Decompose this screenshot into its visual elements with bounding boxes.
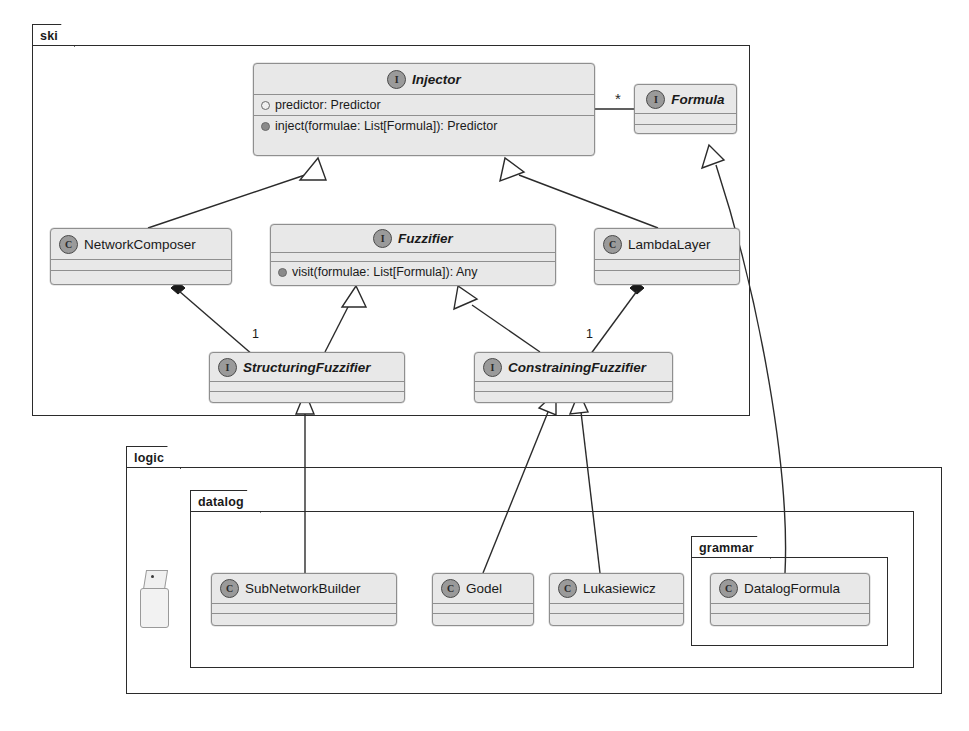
class-box-godel[interactable]: C Godel	[432, 573, 534, 626]
class-box-fuzzifier[interactable]: I Fuzzifier visit(formulae: List[Formula…	[270, 224, 556, 286]
attributes-compartment	[271, 252, 555, 261]
edge-lambdalayer-injector	[500, 158, 658, 228]
class-box-networkcomposer[interactable]: C NetworkComposer	[50, 228, 232, 285]
note-body	[140, 588, 169, 628]
operations-compartment	[210, 391, 404, 401]
class-title-datalogformula: C DatalogFormula	[711, 574, 869, 603]
attributes-compartment	[433, 603, 533, 613]
class-box-injector[interactable]: I Injector predictor: Predictor inject(f…	[253, 63, 595, 156]
visibility-hollow-icon	[261, 101, 270, 110]
class-title-lambdalayer: C LambdaLayer	[595, 229, 739, 259]
edge-subnetworkbuilder-structuringfuzzifier	[296, 392, 314, 573]
class-title-subnetworkbuilder: C SubNetworkBuilder	[212, 574, 396, 603]
edge-lambdalayer-constrainingfuzzifier	[590, 282, 644, 355]
class-title-lukasiewicz: C Lukasiewicz	[550, 574, 683, 603]
edge-constrainingfuzzifier-fuzzifier	[454, 286, 540, 352]
class-box-datalogformula[interactable]: C DatalogFormula	[710, 573, 870, 626]
class-box-lambdalayer[interactable]: C LambdaLayer	[594, 228, 740, 285]
note-scrap	[140, 570, 170, 628]
operations-compartment	[212, 613, 396, 623]
multiplicity-lambdalayer-constrainingfuzzifier: 1	[586, 327, 593, 341]
operations-compartment	[51, 270, 231, 281]
operations-compartment	[433, 613, 533, 623]
class-title-godel: C Godel	[433, 574, 533, 603]
operation-text: visit(formulae: List[Formula]): Any	[292, 265, 477, 279]
class-name-subnetworkbuilder: SubNetworkBuilder	[245, 581, 361, 596]
edge-structuringfuzzifier-fuzzifier	[325, 286, 366, 352]
class-box-subnetworkbuilder[interactable]: C SubNetworkBuilder	[211, 573, 397, 626]
operations-compartment	[711, 613, 869, 623]
note-asterisk-marker	[151, 575, 154, 578]
multiplicity-networkcomposer-structuringfuzzifier: 1	[252, 327, 259, 341]
uml-class-diagram: ski logic datalog grammar	[0, 0, 969, 731]
class-box-lukasiewicz[interactable]: C Lukasiewicz	[549, 573, 684, 626]
class-title-networkcomposer: C NetworkComposer	[51, 229, 231, 259]
attributes-compartment	[550, 603, 683, 613]
interface-stereotype-icon: I	[483, 358, 502, 377]
class-stereotype-icon: C	[441, 579, 460, 598]
interface-stereotype-icon: I	[373, 229, 392, 248]
class-box-structuringfuzzifier[interactable]: I StructuringFuzzifier	[209, 352, 405, 403]
class-name-networkcomposer: NetworkComposer	[84, 237, 196, 252]
operation-row: inject(formulae: List[Formula]): Predict…	[254, 115, 594, 136]
attributes-compartment	[212, 603, 396, 613]
class-name-godel: Godel	[466, 581, 502, 596]
attributes-compartment	[210, 381, 404, 391]
attributes-compartment	[51, 259, 231, 270]
operations-compartment	[595, 270, 739, 281]
class-name-formula: Formula	[671, 92, 724, 107]
edge-datalogformula-formula	[702, 145, 786, 573]
class-title-fuzzifier: I Fuzzifier	[271, 225, 555, 252]
interface-stereotype-icon: I	[387, 70, 406, 89]
class-box-constrainingfuzzifier[interactable]: I ConstrainingFuzzifier	[474, 352, 673, 403]
edge-networkcomposer-injector	[148, 158, 326, 228]
attributes-compartment	[475, 381, 672, 391]
class-stereotype-icon: C	[719, 579, 738, 598]
class-title-formula: I Formula	[635, 85, 736, 113]
class-stereotype-icon: C	[59, 235, 78, 254]
interface-stereotype-icon: I	[218, 358, 237, 377]
visibility-filled-icon	[261, 122, 270, 131]
edge-networkcomposer-structuringfuzzifier	[171, 282, 253, 355]
class-title-constrainingfuzzifier: I ConstrainingFuzzifier	[475, 353, 672, 381]
class-name-constrainingfuzzifier: ConstrainingFuzzifier	[508, 360, 646, 375]
attribute-text: predictor: Predictor	[275, 98, 381, 112]
attribute-row: predictor: Predictor	[254, 94, 594, 115]
class-stereotype-icon: C	[220, 579, 239, 598]
class-name-fuzzifier: Fuzzifier	[398, 231, 453, 246]
interface-stereotype-icon: I	[646, 90, 665, 109]
operation-row: visit(formulae: List[Formula]): Any	[271, 261, 555, 282]
edge-lukasiewicz-constrainingfuzzifier	[570, 392, 600, 573]
edge-godel-constrainingfuzzifier	[483, 392, 556, 573]
attributes-compartment	[595, 259, 739, 270]
class-stereotype-icon: C	[558, 579, 577, 598]
class-name-injector: Injector	[412, 72, 461, 87]
class-name-structuringfuzzifier: StructuringFuzzifier	[243, 360, 371, 375]
class-box-formula[interactable]: I Formula	[634, 84, 737, 134]
class-stereotype-icon: C	[603, 235, 622, 254]
class-name-lambdalayer: LambdaLayer	[628, 237, 711, 252]
multiplicity-injector-formula: *	[615, 91, 621, 106]
class-name-datalogformula: DatalogFormula	[744, 581, 840, 596]
operations-compartment	[550, 613, 683, 623]
attributes-compartment	[711, 603, 869, 613]
class-title-structuringfuzzifier: I StructuringFuzzifier	[210, 353, 404, 381]
class-title-injector: I Injector	[254, 64, 594, 94]
visibility-filled-icon	[278, 268, 287, 277]
operations-compartment	[475, 391, 672, 401]
operations-compartment	[635, 124, 736, 134]
attributes-compartment	[635, 113, 736, 124]
class-name-lukasiewicz: Lukasiewicz	[583, 581, 656, 596]
operation-text: inject(formulae: List[Formula]): Predict…	[275, 119, 497, 133]
